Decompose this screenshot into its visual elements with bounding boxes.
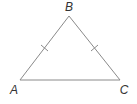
- triangle-abc: [20, 16, 120, 80]
- vertex-label-a: A: [9, 83, 18, 97]
- triangle-svg: B A C: [0, 0, 137, 104]
- triangle-diagram: B A C: [0, 0, 137, 104]
- tick-mark-ab: [41, 45, 48, 51]
- tick-mark-bc: [91, 45, 98, 51]
- vertex-label-b: B: [65, 0, 73, 14]
- vertex-label-c: C: [120, 83, 129, 97]
